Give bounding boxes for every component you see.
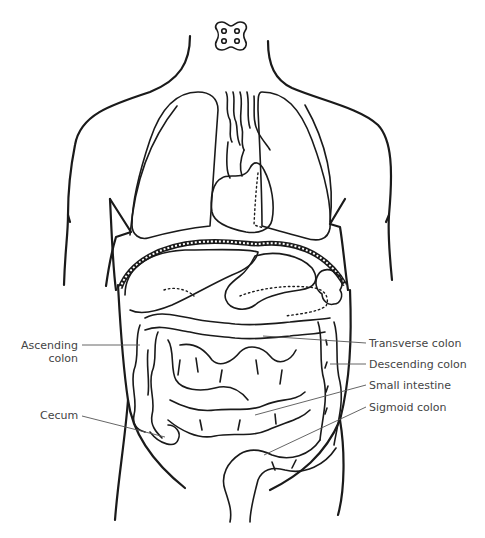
label-sigmoid-colon: Sigmoid colon bbox=[369, 401, 447, 414]
torso-illustration bbox=[0, 0, 485, 538]
label-descending-colon: Descending colon bbox=[369, 358, 467, 371]
label-transverse-colon: Transverse colon bbox=[369, 337, 461, 350]
transverse-colon bbox=[145, 314, 330, 339]
great-vessels bbox=[226, 92, 270, 178]
label-cecum: Cecum bbox=[40, 409, 78, 422]
lungs bbox=[132, 92, 330, 240]
label-ascending-colon-line2: colon bbox=[18, 352, 78, 365]
anatomy-diagram: Ascending colon Cecum Transverse colon D… bbox=[0, 0, 485, 538]
spleen bbox=[316, 270, 342, 305]
leader-sigmoid-colon bbox=[264, 407, 366, 455]
vertebra-icon bbox=[216, 22, 247, 50]
small-intestine bbox=[168, 340, 310, 437]
label-small-intestine: Small intestine bbox=[369, 379, 451, 392]
diaphragm bbox=[120, 241, 345, 288]
stomach bbox=[164, 253, 327, 316]
label-ascending-colon-line1: Ascending bbox=[18, 339, 78, 352]
ascending-colon bbox=[133, 325, 162, 438]
heart bbox=[211, 163, 273, 233]
label-ascending-colon: Ascending colon bbox=[18, 339, 78, 365]
